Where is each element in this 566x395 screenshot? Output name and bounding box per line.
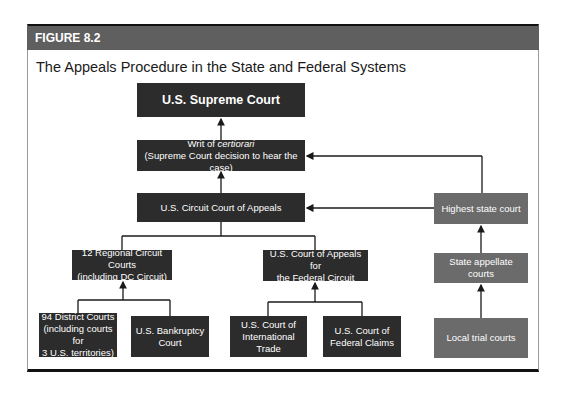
box-label: Highest state court [441, 203, 520, 215]
box-label: U.S. Supreme Court [162, 94, 280, 106]
regional-circuit-courts-box: 12 Regional Circuit Courts (including DC… [72, 250, 172, 280]
box-line: (including courts for [41, 323, 115, 347]
box-label: Local trial courts [446, 332, 515, 344]
local-trial-courts-box: Local trial courts [434, 318, 528, 358]
box-line: International Trade [232, 331, 305, 355]
writ-line1: Writ of certiorari [188, 138, 255, 150]
us-supreme-court-box: U.S. Supreme Court [137, 83, 305, 117]
federal-claims-court-box: U.S. Court of Federal Claims [323, 316, 401, 357]
highest-state-court-box: Highest state court [434, 193, 528, 224]
international-trade-court-box: U.S. Court of International Trade [230, 316, 307, 357]
box-line: Court [158, 337, 181, 349]
box-line: 12 Regional Circuit Courts [74, 247, 170, 271]
us-circuit-court-of-appeals-box: U.S. Circuit Court of Appeals [137, 193, 305, 222]
box-line: 3 U.S. territories) [42, 347, 114, 359]
box-line: U.S. Court of [241, 319, 296, 331]
box-line: 94 District Courts [42, 311, 115, 323]
box-line: the Federal Circuit [277, 272, 355, 284]
writ-of-certiorari-box: Writ of certiorari (Supreme Court decisi… [137, 140, 305, 171]
writ-italic: certiorari [217, 138, 254, 149]
district-courts-box: 94 District Courts (including courts for… [39, 313, 117, 357]
federal-circuit-appeals-box: U.S. Court of Appeals for the Federal Ci… [263, 250, 368, 281]
box-line: (including DC Circuit) [77, 271, 167, 283]
box-label: State appellate courts [436, 256, 526, 280]
box-line: U.S. Court of Appeals for [265, 248, 366, 272]
box-line: U.S. Bankruptcy [136, 325, 205, 337]
state-appellate-courts-box: State appellate courts [434, 253, 528, 283]
writ-prefix: Writ of [188, 138, 218, 149]
box-line: U.S. Court of [335, 325, 390, 337]
box-line: Federal Claims [330, 337, 394, 349]
writ-line2: (Supreme Court decision to hear the case… [139, 150, 303, 174]
box-label: U.S. Circuit Court of Appeals [161, 202, 282, 214]
bankruptcy-court-box: U.S. Bankruptcy Court [131, 316, 209, 357]
